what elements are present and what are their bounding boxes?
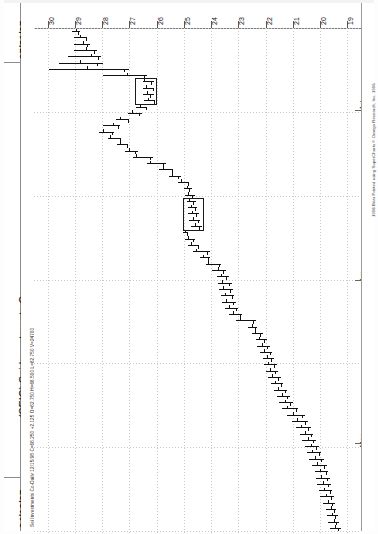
bar-range: [68, 56, 101, 57]
price-tick-label: 28: [102, 17, 109, 25]
bar-open-tick: [103, 129, 104, 132]
bar-open-tick: [255, 330, 256, 333]
bar-close-tick: [336, 523, 337, 526]
bar-close-tick: [232, 296, 233, 299]
bar-close-tick: [236, 309, 237, 312]
bar-open-tick: [267, 355, 268, 358]
plot-canvas: 302928272625242322212019JulJunMay: [34, 3, 361, 533]
bar-open-tick: [120, 117, 121, 120]
time-gridline: [34, 280, 361, 281]
chart-page: 07/31/97 (SEIC) Sei Investments Co 04/16…: [0, 0, 378, 534]
price-tick-label: 25: [184, 17, 191, 25]
bar-close-tick: [127, 145, 128, 148]
bar-range: [330, 528, 341, 529]
bar-open-tick: [334, 519, 335, 522]
time-gridline: [34, 531, 361, 532]
bar-close-tick: [264, 340, 265, 343]
bar-open-tick: [324, 488, 325, 491]
bar-open-tick: [222, 280, 223, 283]
bar-close-tick: [330, 491, 331, 494]
bar-close-tick: [313, 441, 314, 444]
bar-close-tick: [219, 265, 220, 268]
bar-close-tick: [87, 45, 88, 48]
bar-close-tick: [287, 397, 288, 400]
price-tick-label: 30: [48, 17, 55, 25]
consolidation-box: [183, 198, 204, 231]
bar-open-tick: [305, 431, 306, 434]
price-gridline: [238, 28, 239, 533]
price-tick-label: 27: [129, 17, 136, 25]
bar-open-tick: [196, 249, 197, 252]
bar-open-tick: [285, 400, 286, 403]
bar-open-tick: [252, 324, 253, 327]
bar-close-tick: [327, 479, 328, 482]
bar-close-tick: [230, 290, 231, 293]
bar-close-tick: [226, 277, 227, 280]
bar-close-tick: [86, 38, 87, 41]
bar-open-tick: [332, 513, 333, 516]
bar-close-tick: [311, 435, 312, 438]
bar-close-tick: [334, 510, 335, 513]
price-tick-19: 19: [347, 3, 348, 28]
bar-range: [328, 522, 339, 523]
bar-close-tick: [308, 428, 309, 431]
price-tick-29: 29: [75, 3, 76, 28]
bar-close-tick: [118, 126, 119, 129]
bar-close-tick: [78, 32, 79, 35]
bar-open-tick: [268, 362, 269, 365]
bar-close-tick: [253, 321, 254, 324]
bar-close-tick: [305, 422, 306, 425]
tick-mark: [347, 21, 348, 28]
bar-close-tick: [281, 384, 282, 387]
bar-close-tick: [321, 460, 322, 463]
bar-close-tick: [233, 303, 234, 306]
bar-close-tick: [98, 57, 99, 60]
bar-close-tick: [290, 403, 291, 406]
bar-close-tick: [335, 516, 336, 519]
bar-open-tick: [80, 35, 81, 38]
bar-close-tick: [328, 485, 329, 488]
bar-open-tick: [120, 142, 121, 145]
bar-open-tick: [129, 148, 130, 151]
price-gridline: [102, 28, 103, 533]
bar-open-tick: [233, 311, 234, 314]
bar-close-tick: [275, 372, 276, 375]
tick-mark: [211, 21, 212, 28]
bar-open-tick: [321, 475, 322, 478]
plot-area[interactable]: 302928272625242322212019JulJunMay: [34, 3, 361, 533]
bar-open-tick: [221, 274, 222, 277]
bar-open-tick: [240, 318, 241, 321]
bar-open-tick: [262, 343, 263, 346]
bar-open-tick: [226, 299, 227, 302]
price-tick-label: 19: [347, 17, 354, 25]
bar-close-tick: [178, 177, 179, 180]
bar-open-tick: [150, 161, 151, 164]
bar-close-tick: [267, 347, 268, 350]
bar-close-tick: [331, 497, 332, 500]
price-tick-23: 23: [238, 3, 239, 28]
bar-open-tick: [275, 381, 276, 384]
tick-mark: [238, 21, 239, 28]
bar-open-tick: [113, 123, 114, 126]
price-tick-label: 26: [157, 17, 164, 25]
bar-open-tick: [282, 393, 283, 396]
price-gridline: [129, 28, 130, 533]
bar-open-tick: [188, 236, 189, 239]
bar-open-tick: [208, 261, 209, 264]
bar-close-tick: [207, 252, 208, 255]
price-tick-label: 24: [211, 17, 218, 25]
bar-open-tick: [326, 494, 327, 497]
bar-close-tick: [97, 64, 98, 67]
bar-range: [49, 69, 129, 70]
bar-close-tick: [139, 114, 140, 117]
bar-close-tick: [146, 108, 147, 111]
bar-close-tick: [188, 183, 189, 186]
price-tick-label: 23: [238, 17, 245, 25]
bar-open-tick: [136, 154, 137, 157]
bar-close-tick: [223, 271, 224, 274]
bar-open-tick: [264, 349, 265, 352]
bar-close-tick: [326, 472, 327, 475]
bar-open-tick: [172, 173, 173, 176]
tick-mark: [48, 21, 49, 28]
bar-close-tick: [94, 51, 95, 54]
